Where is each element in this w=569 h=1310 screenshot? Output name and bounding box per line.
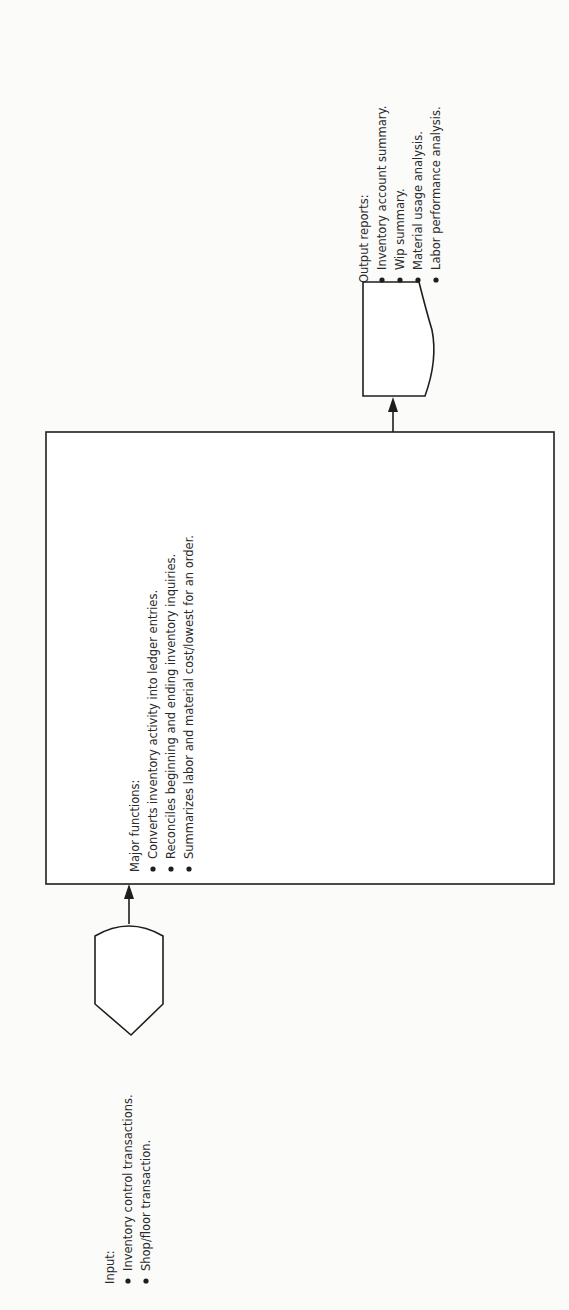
process-item: Reconciles beginning and ending inventor… bbox=[164, 554, 178, 859]
bullet-icon bbox=[143, 1278, 148, 1283]
input-heading: Input: bbox=[103, 1250, 117, 1284]
input-text-block: Input: Inventory control transactions. S… bbox=[103, 1094, 153, 1284]
output-text-block: Output reports: Inventory account summar… bbox=[357, 106, 443, 283]
process-item: Converts inventory activity into ledger … bbox=[146, 590, 160, 859]
input-card-shape bbox=[95, 926, 163, 1035]
bullet-icon bbox=[168, 866, 173, 871]
input-item: Shop/floor transaction. bbox=[139, 1140, 153, 1271]
input-item: Inventory control transactions. bbox=[121, 1094, 135, 1271]
output-item: Labor performance analysis. bbox=[429, 106, 443, 270]
bullet-icon bbox=[397, 277, 402, 282]
output-document-shape bbox=[363, 282, 434, 396]
bullet-icon bbox=[150, 866, 155, 871]
bullet-icon bbox=[433, 277, 438, 282]
input-arrowhead-icon bbox=[124, 884, 134, 899]
process-heading: Major functions: bbox=[128, 780, 142, 872]
output-arrowhead-icon bbox=[388, 397, 398, 412]
flowchart-diagram: Input: Inventory control transactions. S… bbox=[0, 0, 569, 1310]
output-item: Inventory account summary. bbox=[375, 106, 389, 270]
bullet-icon bbox=[186, 866, 191, 871]
bullet-icon bbox=[125, 1278, 130, 1283]
process-item: Summarizes labor and material cost/lowes… bbox=[182, 535, 196, 859]
process-box bbox=[46, 432, 554, 884]
output-item: Material usage analysis. bbox=[411, 131, 425, 270]
output-item: Wip summary. bbox=[393, 188, 407, 270]
output-heading: Output reports: bbox=[357, 194, 371, 283]
bullet-icon bbox=[415, 277, 420, 282]
bullet-icon bbox=[379, 277, 384, 282]
